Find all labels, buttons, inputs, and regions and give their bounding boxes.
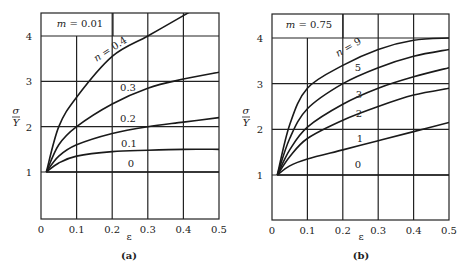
y-tick-label: 2	[257, 124, 263, 135]
curve-label: 0	[128, 158, 134, 169]
annotation-m-value: m = 0.75	[286, 19, 333, 30]
y-axis-label-numerator: σ	[243, 105, 251, 116]
x-tick-label: 0.4	[406, 225, 422, 236]
curve-label: 0.3	[120, 82, 136, 93]
x-tick-label: 0.5	[211, 224, 227, 235]
y-tick-label: 2	[26, 122, 32, 133]
panel-label: (b)	[353, 250, 369, 261]
curve-label: 0.1	[121, 138, 137, 149]
x-tick-label: 0.1	[69, 224, 85, 235]
x-tick-label: 0.3	[370, 225, 386, 236]
x-tick-label: 0	[38, 224, 44, 235]
y-tick-label: 4	[257, 33, 263, 44]
x-axis-label: ε	[126, 231, 131, 242]
x-tick-label: 0.5	[441, 225, 457, 236]
x-tick-label: 0.3	[140, 224, 156, 235]
curve-label: 5	[355, 62, 361, 73]
curve-n-9	[277, 38, 449, 175]
y-tick-label: 3	[26, 76, 32, 87]
curve-label: 0	[355, 159, 361, 170]
y-axis-label-denominator: Y	[243, 117, 251, 128]
annotation-m-value: m = 0.01	[57, 18, 104, 29]
y-tick-label: 1	[26, 167, 32, 178]
y-axis-label-numerator: σ	[13, 105, 21, 116]
y-tick-label: 3	[257, 79, 263, 90]
x-tick-label: 0	[269, 225, 275, 236]
panel-b-chart: 00.10.20.30.40.51234m = 0.75n = 953210σY…	[242, 14, 457, 261]
curve-label: 0.2	[120, 113, 136, 124]
curve-label: 2	[356, 108, 362, 119]
y-axis-label-denominator: Y	[13, 117, 21, 128]
y-tick-label: 1	[257, 170, 263, 181]
curve-label: 1	[357, 133, 363, 144]
x-tick-label: 0.2	[104, 224, 120, 235]
x-tick-label: 0.2	[335, 225, 351, 236]
x-tick-label: 0.4	[175, 224, 191, 235]
figure: 00.10.20.30.40.51234m = 0.01n = 0.40.30.…	[0, 0, 469, 273]
curve-label: 3	[356, 89, 362, 100]
x-tick-label: 0.1	[299, 225, 315, 236]
y-tick-label: 4	[26, 31, 32, 42]
curve-label: n = 9	[334, 35, 363, 58]
panel-a-chart: 00.10.20.30.40.51234m = 0.01n = 0.40.30.…	[12, 5, 227, 261]
x-axis-label: ε	[358, 231, 363, 242]
panel-label: (a)	[121, 250, 137, 261]
